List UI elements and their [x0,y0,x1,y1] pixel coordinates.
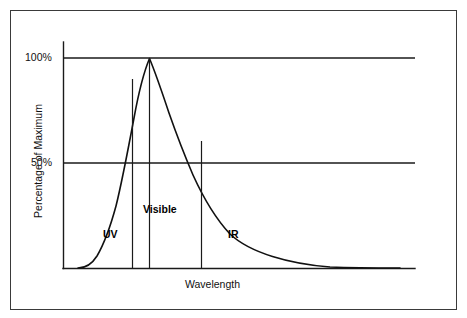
region-label-ir: IR [228,229,239,240]
region-label-visible: Visible [143,204,177,215]
region-label-uv: UV [103,229,118,240]
y-axis-title: Percentage of Maximum [32,86,44,236]
x-axis-title: Wavelength [185,278,240,290]
figure-container: 100% 50% Percentage of Maximum Wavelengt… [0,0,467,318]
chart-canvas [0,0,467,318]
y-tick-label-100-percent: 100% [25,52,52,63]
